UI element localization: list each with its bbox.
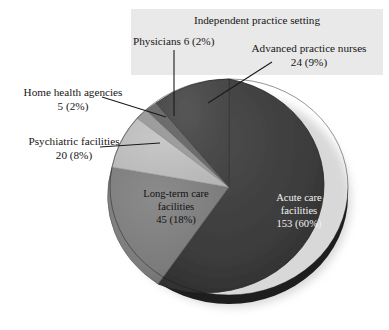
label-acute-care-facilities-line2: facilities — [256, 204, 342, 217]
label-home-health-agencies: Home health agencies 5 (2%) — [12, 86, 134, 113]
pie-chart-figure: Independent practice setting Physicians … — [0, 0, 389, 330]
label-home-health-agencies-line1: Home health agencies — [12, 86, 134, 100]
label-psychiatric-facilities-line1: Psychiatric facilities — [14, 135, 134, 149]
callout-title: Independent practice setting — [131, 13, 383, 27]
label-psychiatric-facilities: Psychiatric facilities 20 (8%) — [14, 135, 134, 162]
label-long-term-care-facilities-line3: 45 (18%) — [128, 213, 224, 226]
label-acute-care-facilities-line1: Acute care — [256, 191, 342, 204]
label-psychiatric-facilities-line2: 20 (8%) — [14, 149, 134, 163]
label-physicians-text: Physicians 6 (2%) — [133, 35, 214, 47]
label-physicians: Physicians 6 (2%) — [133, 35, 214, 49]
label-long-term-care-facilities: Long-term care facilities 45 (18%) — [128, 187, 224, 226]
label-advanced-practice-nurses-line2: 24 (9%) — [243, 56, 375, 70]
label-long-term-care-facilities-line1: Long-term care — [128, 187, 224, 200]
label-advanced-practice-nurses-line1: Advanced practice nurses — [243, 42, 375, 56]
label-advanced-practice-nurses: Advanced practice nurses 24 (9%) — [243, 42, 375, 69]
label-home-health-agencies-line2: 5 (2%) — [12, 100, 134, 114]
label-long-term-care-facilities-line2: facilities — [128, 200, 224, 213]
label-acute-care-facilities: Acute care facilities 153 (60%) — [256, 191, 342, 230]
label-acute-care-facilities-line3: 153 (60%) — [256, 217, 342, 230]
